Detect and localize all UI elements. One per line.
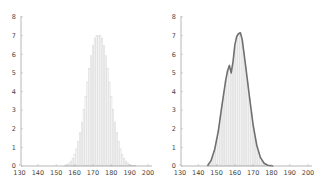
histogram-bar [118, 142, 119, 166]
histogram-bar [229, 66, 230, 166]
histogram-bar [231, 73, 232, 166]
x-tick-label: 160 [229, 169, 241, 177]
histogram-bar [78, 142, 79, 166]
histogram-bar [109, 82, 110, 166]
x-tick-label: 170 [247, 169, 259, 177]
histogram-bar [227, 71, 228, 166]
histogram-bar [125, 161, 126, 166]
histogram-bar [79, 133, 80, 166]
y-tick-label: 4 [172, 88, 176, 96]
x-tick-label: 190 [284, 169, 296, 177]
histogram-bar [101, 38, 102, 166]
histogram-bar [111, 96, 112, 166]
y-tick-label: 7 [12, 32, 16, 40]
histogram-bar [100, 36, 101, 166]
y-tick-label: 8 [12, 13, 16, 21]
histogram-bar [98, 36, 99, 166]
histogram-bar [225, 80, 226, 166]
histogram-bar [243, 52, 244, 166]
y-tick-label: 7 [172, 32, 176, 40]
histogram-bar [122, 154, 123, 166]
histogram-bar [103, 45, 104, 166]
histogram-bar [76, 149, 77, 166]
histogram-bar [107, 68, 108, 166]
histogram-bar [81, 122, 82, 166]
y-tick-label: 2 [172, 125, 176, 133]
x-tick-label: 130 [174, 169, 186, 177]
x-tick-label: 140 [192, 169, 204, 177]
histogram-bar [96, 36, 97, 166]
histogram-bar [83, 110, 84, 166]
y-tick-label: 4 [12, 88, 16, 96]
histogram-bar [70, 161, 71, 166]
histogram-bar [114, 122, 115, 166]
histogram-bar [113, 110, 114, 166]
right-chart: 012345678130140150160170180190200 [161, 0, 322, 192]
x-tick-label: 160 [68, 169, 80, 177]
y-tick-label: 6 [12, 51, 16, 59]
histogram-bar [92, 45, 93, 166]
histogram-bar [238, 34, 239, 166]
histogram-bar [240, 33, 241, 166]
histogram-bar [87, 82, 88, 166]
histogram-bar [223, 92, 224, 167]
x-tick-label: 190 [123, 169, 135, 177]
y-tick-label: 5 [12, 69, 16, 77]
histogram-bar [68, 163, 69, 166]
histogram-bar [124, 158, 125, 166]
histogram-bar [127, 163, 128, 166]
histogram-bar [116, 133, 117, 166]
x-tick-label: 180 [265, 169, 277, 177]
y-tick-label: 3 [12, 106, 16, 114]
x-tick-label: 140 [32, 169, 44, 177]
left-chart: 012345678130140150160170180190200 [0, 0, 161, 192]
histogram-bar [234, 47, 235, 166]
y-tick-label: 1 [12, 144, 16, 152]
histogram-bar [89, 68, 90, 166]
x-tick-label: 150 [50, 169, 62, 177]
histogram-bar [94, 38, 95, 166]
histogram-bar [242, 39, 243, 166]
y-tick-label: 3 [172, 106, 176, 114]
y-tick-label: 2 [12, 125, 16, 133]
histogram-bar [236, 37, 237, 166]
y-tick-label: 1 [172, 144, 176, 152]
histogram-bar [245, 67, 246, 166]
left-histogram: 012345678130140150160170180190200 [0, 0, 161, 192]
histogram-bar [249, 97, 250, 166]
y-tick-label: 8 [172, 13, 176, 21]
histogram-bar [90, 56, 91, 166]
histogram-bar [85, 96, 86, 166]
x-tick-label: 130 [13, 169, 25, 177]
right-histogram-with-curve: 012345678130140150160170180190200 [161, 0, 322, 192]
histogram-bar [221, 105, 222, 166]
x-tick-label: 180 [105, 169, 117, 177]
y-tick-label: 5 [172, 69, 176, 77]
y-tick-label: 6 [172, 51, 176, 59]
x-tick-label: 200 [142, 169, 154, 177]
x-tick-label: 150 [210, 169, 222, 177]
histogram-bar [120, 149, 121, 166]
histogram-bar [72, 158, 73, 166]
histogram-bar [232, 62, 233, 166]
histogram-bar [105, 56, 106, 166]
histogram-bar [247, 82, 248, 166]
x-tick-label: 170 [87, 169, 99, 177]
x-tick-label: 200 [302, 169, 314, 177]
